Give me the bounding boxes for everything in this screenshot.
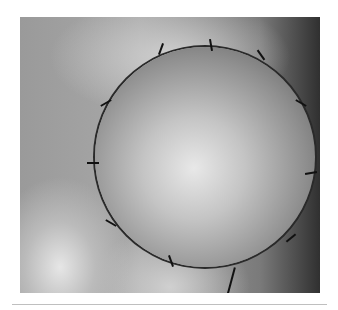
suture-mark [286, 233, 296, 242]
suture-mark [257, 50, 266, 61]
divider-rule [12, 304, 327, 305]
suture-mark [158, 43, 164, 55]
suture-mark [87, 162, 99, 164]
clinical-photograph [20, 17, 320, 293]
suture-mark [226, 267, 236, 293]
skin-graft-region [95, 47, 315, 267]
